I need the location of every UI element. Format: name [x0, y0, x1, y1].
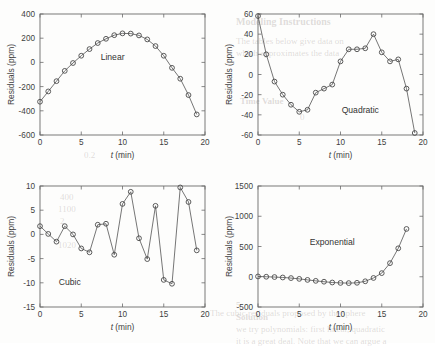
x-tick-label: 10 — [118, 138, 128, 147]
x-tick-label: 0 — [256, 138, 261, 147]
x-axis-title: t (min) — [329, 150, 353, 160]
series-line-linear — [40, 33, 197, 114]
x-tick-label: 10 — [118, 310, 128, 319]
y-tick-label: 200 — [21, 34, 35, 43]
x-tick-label: 0 — [38, 310, 43, 319]
chart-linear: 05101520-600-400-2000200400t (min)Residu… — [0, 0, 217, 171]
x-tick-label: 5 — [79, 310, 84, 319]
chart-quadratic: 05101520-60-40-200204060t (min)Residuals… — [218, 0, 435, 171]
chart-inline-label-linear: Linear — [101, 52, 125, 62]
y-tick-label: -20 — [241, 91, 253, 100]
y-axis-title: Residuals (ppm) — [6, 44, 16, 105]
chart-inline-label-quadratic: Quadratic — [342, 105, 380, 115]
series-line-quadratic — [258, 16, 415, 133]
y-axis-title: Residuals (ppm) — [224, 44, 234, 105]
y-tick-label: -500 — [237, 303, 254, 312]
y-tick-label: -600 — [19, 131, 36, 140]
y-tick-label: 10 — [26, 182, 36, 191]
x-tick-label: 0 — [256, 310, 261, 319]
y-tick-label: -60 — [241, 131, 253, 140]
y-tick-label: 400 — [21, 10, 35, 19]
chart-cubic: 05101520-15-10-50510t (min)Residuals (pp… — [0, 172, 217, 343]
y-tick-label: 20 — [244, 50, 254, 59]
x-tick-label: 10 — [336, 138, 346, 147]
chart-panel-linear: 05101520-600-400-2000200400t (min)Residu… — [0, 0, 217, 171]
chart-inline-label-exponential: Exponential — [310, 237, 355, 247]
y-axis-title: Residuals (ppm) — [224, 216, 234, 277]
y-tick-label: -40 — [241, 111, 253, 120]
x-tick-label: 15 — [377, 138, 387, 147]
x-tick-label: 10 — [336, 310, 346, 319]
x-tick-label: 15 — [159, 138, 169, 147]
y-tick-label: 40 — [244, 30, 254, 39]
y-tick-label: 0 — [30, 230, 35, 239]
y-tick-label: -200 — [19, 83, 36, 92]
y-tick-label: 0 — [30, 58, 35, 67]
y-tick-label: 1000 — [235, 212, 254, 221]
plot-box — [258, 14, 423, 135]
chart-exponential: 05101520-500050010001500t (min)Residuals… — [218, 172, 435, 343]
x-tick-label: 20 — [418, 138, 428, 147]
y-tick-label: 0 — [248, 71, 253, 80]
x-tick-label: 15 — [377, 310, 387, 319]
x-axis-title: t (min) — [111, 150, 135, 160]
chart-inline-label-cubic: Cubic — [59, 277, 82, 287]
chart-panel-exponential: 05101520-500050010001500t (min)Residuals… — [218, 172, 435, 343]
x-tick-label: 5 — [79, 138, 84, 147]
x-axis-title: t (min) — [329, 322, 353, 332]
y-tick-label: 5 — [30, 206, 35, 215]
y-tick-label: 1500 — [235, 182, 254, 191]
series-line-cubic — [40, 187, 197, 283]
x-tick-label: 15 — [159, 310, 169, 319]
y-tick-label: -5 — [28, 255, 36, 264]
x-axis-title: t (min) — [111, 322, 135, 332]
y-axis-title: Residuals (ppm) — [6, 216, 16, 277]
y-tick-label: -10 — [23, 279, 35, 288]
x-tick-label: 0 — [38, 138, 43, 147]
y-tick-label: -15 — [23, 303, 35, 312]
y-tick-label: -400 — [19, 107, 36, 116]
chart-panel-quadratic: 05101520-60-40-200204060t (min)Residuals… — [218, 0, 435, 171]
y-tick-label: 500 — [239, 243, 253, 252]
x-tick-label: 20 — [200, 310, 210, 319]
x-tick-label: 5 — [297, 138, 302, 147]
y-tick-label: 60 — [244, 10, 254, 19]
y-tick-label: 0 — [248, 273, 253, 282]
x-tick-label: 20 — [418, 310, 428, 319]
chart-panel-cubic: 05101520-15-10-50510t (min)Residuals (pp… — [0, 172, 217, 343]
x-tick-label: 20 — [200, 138, 210, 147]
plot-box — [40, 14, 205, 135]
x-tick-label: 5 — [297, 310, 302, 319]
